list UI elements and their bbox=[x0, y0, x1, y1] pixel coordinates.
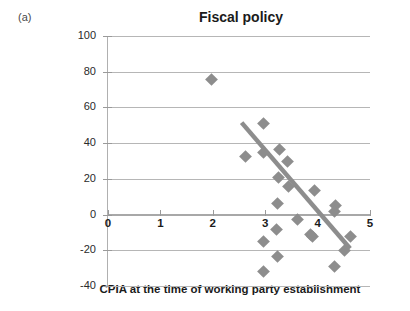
scatter-point bbox=[257, 147, 270, 160]
y-axis-tick-label: -20 bbox=[62, 243, 96, 255]
scatter-point bbox=[281, 155, 294, 168]
scatter-point bbox=[257, 117, 270, 130]
y-axis-tick-label: -40 bbox=[62, 279, 96, 291]
scatter-point bbox=[344, 230, 357, 243]
y-axis-tick-label: 100 bbox=[62, 29, 96, 41]
y-axis-tick-label: 80 bbox=[62, 65, 96, 77]
scatter-point bbox=[205, 73, 218, 86]
scatter-point bbox=[273, 143, 286, 156]
scatter-point bbox=[282, 181, 295, 194]
scatter-point bbox=[272, 171, 285, 184]
plot-area bbox=[108, 36, 370, 286]
scatter-point bbox=[309, 184, 322, 197]
scatter-point bbox=[271, 250, 284, 263]
y-axis-tick-label: 60 bbox=[62, 100, 96, 112]
y-axis-tick-label: 0 bbox=[62, 208, 96, 220]
scatter-point bbox=[239, 150, 252, 163]
panel-letter: (a) bbox=[18, 11, 31, 23]
scatter-point bbox=[291, 214, 304, 227]
x-axis-tick bbox=[370, 210, 371, 216]
scatter-point bbox=[257, 265, 270, 278]
y-axis-tick-label: 20 bbox=[62, 172, 96, 184]
scatter-point bbox=[270, 223, 283, 236]
scatter-point bbox=[271, 197, 284, 210]
chart-title: Fiscal policy bbox=[110, 9, 372, 25]
chart-figure: (a) Fiscal policy CPIA relative increase… bbox=[0, 0, 410, 311]
y-axis-tick bbox=[103, 286, 112, 287]
y-axis-tick-label: 40 bbox=[62, 136, 96, 148]
scatter-point bbox=[257, 235, 270, 248]
scatter-point bbox=[338, 244, 351, 257]
scatter-point bbox=[329, 260, 342, 273]
gridline bbox=[108, 286, 370, 287]
